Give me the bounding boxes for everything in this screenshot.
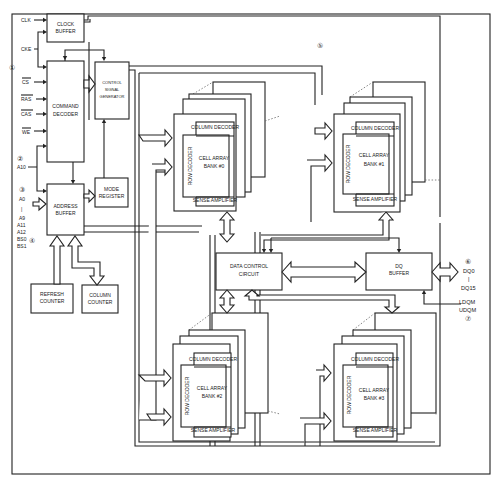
label-bs1: BS1 xyxy=(17,243,27,249)
command-decoder: COMMAND DECODER xyxy=(47,61,84,162)
svg-text:CELL ARRAY: CELL ARRAY xyxy=(199,155,230,161)
label-a0: A0 xyxy=(19,196,25,202)
callout-5: ⑤ xyxy=(317,42,323,49)
svg-text:BUFFER: BUFFER xyxy=(56,28,76,34)
label-a10: A10 xyxy=(17,164,26,170)
bank-0: COLUMN DECODER CELL ARRAY BANK #0 SENSE … xyxy=(174,82,280,211)
bank-1: COLUMN DECODER CELL ARRAY BANK #1 SENSE … xyxy=(334,82,440,212)
label-cs: CS xyxy=(22,79,30,85)
label-cas: CAS xyxy=(21,111,32,117)
label-ras: RAS xyxy=(21,96,32,102)
svg-text:DECODER: DECODER xyxy=(53,111,78,117)
mode-register: MODE REGISTER xyxy=(95,178,128,207)
svg-text:MODE: MODE xyxy=(104,186,120,192)
svg-text:CIRCUIT: CIRCUIT xyxy=(239,271,259,277)
svg-text:ROW DECODER: ROW DECODER xyxy=(187,146,193,185)
callout-7: ⑦ xyxy=(465,315,471,322)
label-bs0: BS0 xyxy=(17,236,27,242)
callout-3: ③ xyxy=(19,186,25,193)
refresh-counter: REFRESH COUNTER xyxy=(31,284,73,313)
svg-text:BANK #0: BANK #0 xyxy=(204,163,225,169)
label-a9: A9 xyxy=(19,215,25,221)
address-buffer: ADDRESS BUFFER xyxy=(47,184,84,235)
svg-text:COLUMN: COLUMN xyxy=(89,292,111,298)
svg-text:CELL ARRAY: CELL ARRAY xyxy=(359,152,390,158)
svg-text:BANK #2: BANK #2 xyxy=(202,393,223,399)
svg-text:COUNTER: COUNTER xyxy=(40,298,65,304)
data-control-circuit: DATA CONTROL CIRCUIT xyxy=(216,253,282,290)
svg-text:COLUMN DECODER: COLUMN DECODER xyxy=(351,125,399,131)
clock-buffer: CLOCK BUFFER xyxy=(47,14,84,42)
callout-2: ② xyxy=(17,155,23,162)
label-udqm: UDQM xyxy=(459,307,476,313)
svg-text:BUFFER: BUFFER xyxy=(56,210,76,216)
svg-text:COUNTER: COUNTER xyxy=(88,299,113,305)
svg-text:SENSE AMPLIFIER: SENSE AMPLIFIER xyxy=(353,196,398,202)
svg-text:SENSE AMPLIFIER: SENSE AMPLIFIER xyxy=(353,427,398,433)
svg-text:COLUMN DECODER: COLUMN DECODER xyxy=(191,124,239,130)
label-a11: A11 xyxy=(17,222,26,228)
label-cke: CKE xyxy=(21,46,32,52)
svg-text:CLOCK: CLOCK xyxy=(57,21,75,27)
bank-3: COLUMN DECODER CELL ARRAY BANK #3 SENSE … xyxy=(334,313,436,441)
svg-text:SENSE AMPLIFIER: SENSE AMPLIFIER xyxy=(193,197,238,203)
label-a12: A12 xyxy=(17,229,26,235)
callout-1: ① xyxy=(9,64,15,71)
column-counter: COLUMN COUNTER xyxy=(82,285,118,313)
label-a-sep: | xyxy=(21,206,22,212)
label-ldqm: LDQM xyxy=(459,299,476,305)
bank-2: COLUMN DECODER CELL ARRAY BANK #2 SENSE … xyxy=(173,313,280,441)
callout-6: ⑥ xyxy=(465,258,471,265)
svg-text:BANK #3: BANK #3 xyxy=(364,395,385,401)
svg-text:REGISTER: REGISTER xyxy=(99,193,125,199)
svg-text:ROW DECODER: ROW DECODER xyxy=(184,376,190,415)
svg-text:SIGNAL: SIGNAL xyxy=(105,87,120,92)
label-dq-sep: | xyxy=(468,276,469,282)
svg-text:GENERATOR: GENERATOR xyxy=(100,94,125,99)
svg-text:ADDRESS: ADDRESS xyxy=(53,203,78,209)
svg-text:CELL ARRAY: CELL ARRAY xyxy=(359,387,390,393)
svg-text:SENSE AMPLIFIER: SENSE AMPLIFIER xyxy=(191,427,236,433)
control-signal-generator: CONTROL SIGNAL GENERATOR xyxy=(95,62,129,119)
svg-text:DQ: DQ xyxy=(395,263,403,269)
svg-text:COLUMN DECODER: COLUMN DECODER xyxy=(189,356,237,362)
svg-text:BANK #1: BANK #1 xyxy=(364,161,385,167)
svg-text:BUFFER: BUFFER xyxy=(389,270,409,276)
svg-text:ROW DECODER: ROW DECODER xyxy=(346,375,352,414)
label-clk: CLK xyxy=(21,17,31,23)
label-we: WE xyxy=(22,129,31,135)
label-dq0: DQ0 xyxy=(463,268,475,274)
dq-buffer: DQ BUFFER xyxy=(366,253,432,290)
svg-text:ROW DECODER: ROW DECODER xyxy=(345,144,351,183)
sdram-block-diagram: CLK CKE ① CS RAS CAS WE ② A10 ③ A0 | A9 … xyxy=(0,0,495,482)
svg-text:CELL ARRAY: CELL ARRAY xyxy=(197,385,228,391)
svg-text:COLUMN DECODER: COLUMN DECODER xyxy=(351,356,399,362)
callout-4: ④ xyxy=(29,237,35,244)
svg-text:COMMAND: COMMAND xyxy=(52,103,79,109)
svg-text:DATA CONTROL: DATA CONTROL xyxy=(230,263,268,269)
label-dq15: DQ15 xyxy=(461,285,476,291)
input-labels: CLK CKE ① CS RAS CAS WE ② A10 ③ A0 | A9 … xyxy=(9,17,35,249)
svg-text:REFRESH: REFRESH xyxy=(40,291,64,297)
svg-text:CONTROL: CONTROL xyxy=(102,80,122,85)
